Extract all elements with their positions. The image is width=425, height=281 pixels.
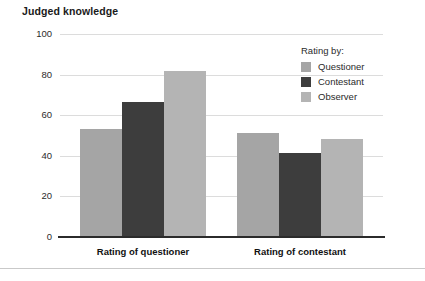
legend-entry: Contestant: [301, 74, 411, 89]
bar: [237, 133, 279, 237]
legend-entries: QuestionerContestantObserver: [301, 59, 411, 104]
bar: [279, 153, 321, 237]
legend-entry-label: Observer: [318, 92, 357, 102]
legend-swatch-icon: [301, 92, 311, 102]
legend-swatch-icon: [301, 62, 311, 72]
legend-entry: Observer: [301, 89, 411, 104]
bar-chart-figure: Judged knowledge 100806040200 Rating of …: [0, 0, 425, 281]
legend-entry-label: Contestant: [318, 77, 364, 87]
x-axis-group-label: Rating of contestant: [217, 246, 383, 257]
y-axis-tick-label: 0: [22, 232, 52, 242]
x-axis-group-label: Rating of questioner: [60, 246, 226, 257]
y-axis-tick-labels: 100806040200: [22, 34, 52, 237]
y-axis-tick-label: 80: [22, 70, 52, 80]
legend-title: Rating by:: [301, 46, 411, 56]
y-axis-tick-label: 20: [22, 191, 52, 201]
legend-swatch-icon: [301, 77, 311, 87]
bar: [321, 139, 363, 237]
legend: Rating by: QuestionerContestantObserver: [301, 46, 411, 104]
y-axis-tick-label: 60: [22, 110, 52, 120]
legend-entry: Questioner: [301, 59, 411, 74]
figure-bottom-rule: [0, 268, 425, 269]
x-axis-baseline: [58, 236, 385, 238]
bar: [164, 71, 206, 237]
chart-title: Judged knowledge: [22, 5, 118, 17]
bar: [80, 129, 122, 237]
legend-entry-label: Questioner: [318, 62, 364, 72]
y-axis-tick-label: 100: [22, 29, 52, 39]
bar: [122, 102, 164, 237]
y-axis-tick-label: 40: [22, 151, 52, 161]
